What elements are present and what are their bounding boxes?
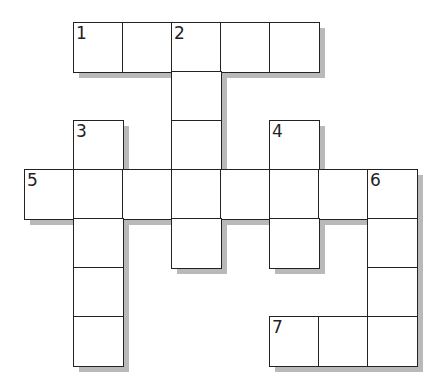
crossword-cell[interactable]	[220, 22, 271, 73]
crossword-cell[interactable]	[73, 267, 124, 318]
crossword-cell[interactable]	[73, 316, 124, 367]
crossword-cell[interactable]: 5	[24, 169, 75, 220]
crossword-cell[interactable]	[122, 22, 173, 73]
crossword-cell[interactable]	[73, 218, 124, 269]
crossword-cell[interactable]	[171, 218, 222, 269]
crossword-cell[interactable]: 6	[367, 169, 418, 220]
crossword-cell[interactable]	[171, 71, 222, 122]
crossword-cell[interactable]	[171, 120, 222, 171]
crossword-cell[interactable]: 3	[73, 120, 124, 171]
clue-number: 2	[174, 23, 185, 43]
crossword-cell[interactable]	[367, 316, 418, 367]
crossword-cell[interactable]	[122, 169, 173, 220]
crossword-cell[interactable]: 4	[269, 120, 320, 171]
crossword-cell[interactable]	[171, 169, 222, 220]
crossword-grid: 1234567	[0, 0, 437, 391]
clue-number: 3	[76, 121, 87, 141]
crossword-cell[interactable]	[269, 218, 320, 269]
crossword-cell[interactable]: 2	[171, 22, 222, 73]
crossword-cell[interactable]	[269, 22, 320, 73]
clue-number: 6	[370, 170, 381, 190]
crossword-cell[interactable]	[220, 169, 271, 220]
crossword-cell[interactable]: 7	[269, 316, 320, 367]
crossword-cell[interactable]: 1	[73, 22, 124, 73]
crossword-cell[interactable]	[367, 267, 418, 318]
crossword-cell[interactable]	[318, 316, 369, 367]
clue-number: 5	[27, 170, 38, 190]
crossword-cell[interactable]	[73, 169, 124, 220]
crossword-cell[interactable]	[318, 169, 369, 220]
crossword-cell[interactable]	[367, 218, 418, 269]
clue-number: 4	[272, 121, 283, 141]
clue-number: 1	[76, 23, 87, 43]
clue-number: 7	[272, 317, 283, 337]
crossword-cell[interactable]	[269, 169, 320, 220]
